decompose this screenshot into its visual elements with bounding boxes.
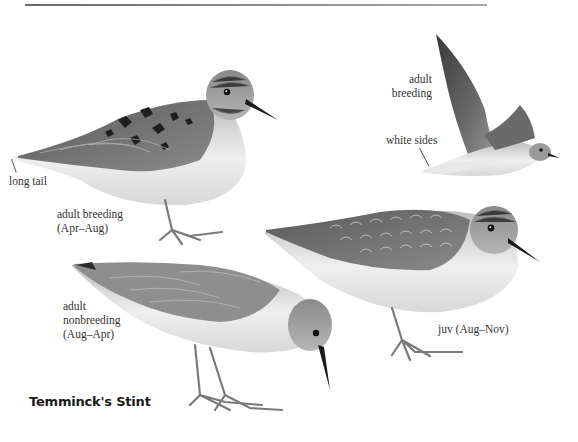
adult-breeding-flight-label: adult breeding [380,72,432,100]
juvenile-label: juv (Aug–Nov) [438,322,509,336]
white-sides-callout: white sides [386,133,437,147]
juvenile-label-text: juv (Aug–Nov) [438,323,509,335]
adult-nonbreeding-label: adult nonbreeding (Aug–Apr) [63,299,120,341]
bird-adult-breeding-flight [422,34,560,176]
adult-breeding-label-line1: adult breeding [57,207,123,221]
flight-label-line2: breeding [380,86,432,100]
flight-label-line1: adult [380,72,432,86]
nonbreeding-label-line3: (Aug–Apr) [63,327,120,341]
bird-adult-breeding-standing [12,70,278,244]
white-sides-text: white sides [386,134,437,146]
long-tail-callout: long tail [9,174,47,188]
nonbreeding-label-line1: adult [63,299,120,313]
adult-breeding-label-line2: (Apr–Aug) [57,221,123,235]
species-title: Temminck's Stint [29,394,151,409]
adult-breeding-standing-label: adult breeding (Apr–Aug) [57,207,123,235]
nonbreeding-label-line2: nonbreeding [63,313,120,327]
long-tail-text: long tail [9,175,47,187]
